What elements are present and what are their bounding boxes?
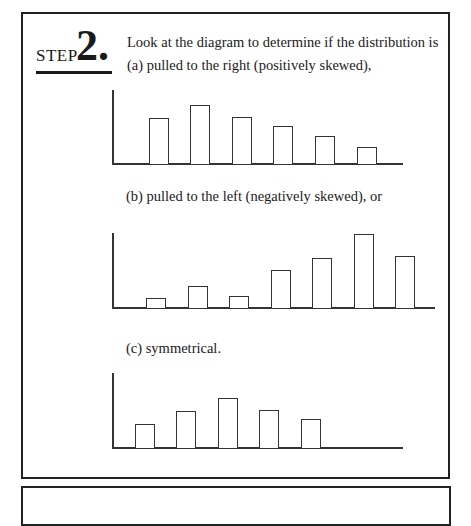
step-label: STEP bbox=[36, 46, 78, 66]
bar bbox=[188, 286, 208, 308]
bar bbox=[146, 298, 166, 308]
step-number: 2. bbox=[76, 24, 109, 68]
bar bbox=[354, 234, 374, 308]
step-underline bbox=[36, 71, 112, 74]
bar bbox=[312, 258, 332, 308]
intro-text: Look at the diagram to determine if the … bbox=[127, 34, 438, 50]
option-c-text: (c) symmetrical. bbox=[126, 340, 221, 356]
bar bbox=[229, 296, 249, 308]
bar bbox=[315, 136, 335, 164]
bar bbox=[218, 398, 238, 448]
option-a-text: (a) pulled to the right (positively skew… bbox=[127, 57, 371, 73]
bar bbox=[273, 126, 293, 164]
bar bbox=[357, 147, 377, 164]
y-axis bbox=[112, 373, 114, 449]
bar bbox=[190, 105, 210, 164]
bar bbox=[149, 118, 169, 164]
bar bbox=[259, 410, 279, 448]
y-axis bbox=[112, 90, 114, 165]
bar bbox=[271, 270, 291, 308]
y-axis bbox=[112, 233, 114, 309]
bar bbox=[301, 419, 321, 448]
bar bbox=[176, 411, 196, 448]
bar bbox=[395, 256, 415, 308]
bar bbox=[232, 117, 252, 164]
next-panel bbox=[21, 486, 451, 526]
x-axis bbox=[112, 447, 403, 449]
bar bbox=[135, 424, 155, 448]
option-b-text: (b) pulled to the left (negatively skewe… bbox=[126, 188, 382, 204]
